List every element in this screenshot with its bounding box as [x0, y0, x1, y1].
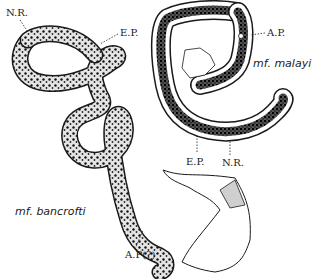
bancrofti-sheath: [163, 170, 250, 272]
bancrofti-worm: [20, 34, 166, 272]
malayi-nerve-ring-label: N.R.: [222, 158, 244, 168]
malayi-worm: [161, 10, 284, 132]
bancrofti-anal-pore-label: A.P(?): [125, 250, 155, 260]
bancrofti-excretory-pore-label: E.P.: [120, 28, 138, 38]
malayi-excretory-pore-label: E.P.: [186, 157, 204, 167]
microfilariae-illustration: N.R. E.P. A.P(?) mf. bancrofti A.P. mf. …: [0, 0, 316, 279]
bancrofti-species-label: mf. bancrofti: [15, 206, 86, 217]
worm-drawings: [0, 0, 316, 279]
bancrofti-nerve-ring-label: N.R.: [6, 8, 28, 18]
malayi-anal-pore-label: A.P.: [267, 28, 285, 38]
malayi-species-label: mf. malayi: [253, 58, 311, 69]
